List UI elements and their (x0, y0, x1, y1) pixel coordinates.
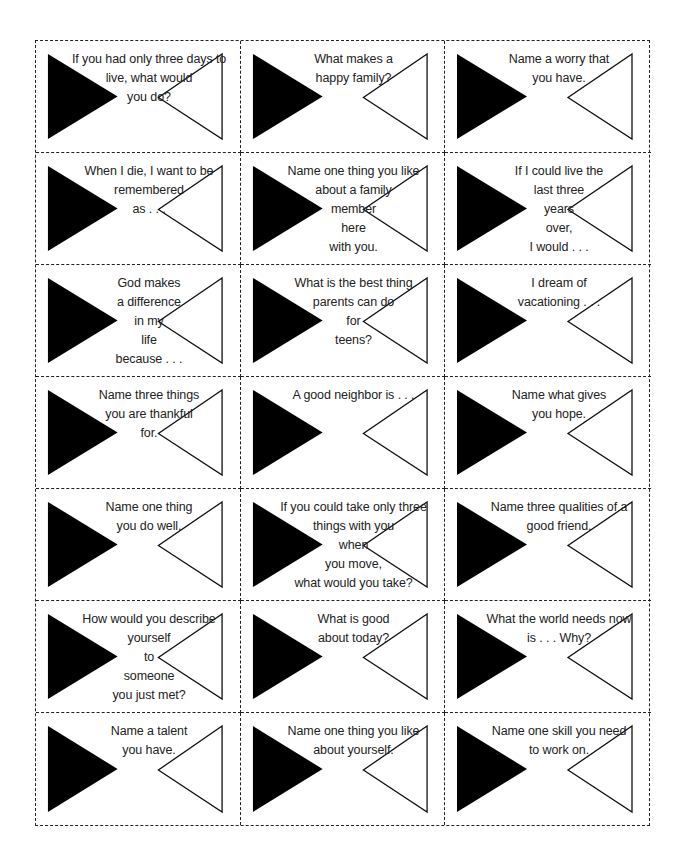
conversation-card: I dream ofvacationing . . . (445, 265, 651, 377)
prompt-line: you do well. (72, 517, 226, 536)
card-prompt: What is the best thingparents can dofort… (277, 274, 430, 350)
prompt-line: life (72, 331, 226, 350)
prompt-line: parents can do (277, 293, 430, 312)
prompt-line: If you had only three days to (72, 50, 226, 69)
conversation-card: A good neighbor is . . . (241, 377, 445, 489)
prompt-line: you hope. (481, 405, 637, 424)
prompt-line: If I could live the (481, 162, 637, 181)
prompt-line: Name three things (72, 386, 226, 405)
prompt-line: when (277, 536, 430, 555)
prompt-line: remembered (72, 181, 226, 200)
conversation-card: If you could take only threethings with … (241, 489, 445, 601)
prompt-line: you move, (277, 555, 430, 574)
prompt-line: Name one thing (72, 498, 226, 517)
prompt-line: here (277, 219, 430, 238)
card-prompt: Name three thingsyou are thankfulfor. (72, 386, 226, 443)
conversation-card: Name a worry thatyou have. (445, 41, 651, 153)
card-prompt: Name a talentyou have. (72, 722, 226, 760)
prompt-line: What makes a (277, 50, 430, 69)
prompt-line: Name one skill you need (481, 722, 637, 741)
prompt-line: for (277, 312, 430, 331)
card-sheet: If you had only three days tolive, what … (35, 40, 650, 826)
prompt-line: vacationing . . . (481, 293, 637, 312)
card-prompt: A good neighbor is . . . (277, 386, 430, 405)
prompt-line: things with you (277, 517, 430, 536)
card-prompt: Name what givesyou hope. (481, 386, 637, 424)
prompt-line: last three (481, 181, 637, 200)
prompt-line: for. (72, 424, 226, 443)
conversation-card: Name three thingsyou are thankfulfor. (36, 377, 241, 489)
conversation-card: What makes ahappy family? (241, 41, 445, 153)
prompt-line: teens? (277, 331, 430, 350)
prompt-line: member (277, 200, 430, 219)
prompt-line: Name a worry that (481, 50, 637, 69)
card-prompt: Name three qualities of agood friend. (481, 498, 637, 536)
prompt-line: you have. (72, 741, 226, 760)
conversation-card: If you had only three days tolive, what … (36, 41, 241, 153)
card-prompt: Name one skill you needto work on. (481, 722, 637, 760)
card-prompt: God makesa differencein mylifebecause . … (72, 274, 226, 369)
card-prompt: Name one thingyou do well. (72, 498, 226, 536)
card-prompt: Name one thing you likeabout yourself. (277, 722, 430, 760)
prompt-line: you just met? (72, 686, 226, 705)
prompt-line: someone (72, 667, 226, 686)
prompt-line: Name a talent (72, 722, 226, 741)
conversation-card: Name one thing you likeabout yourself. (241, 713, 445, 825)
prompt-line: Name three qualities of a (481, 498, 637, 517)
prompt-line: because . . . (72, 350, 226, 369)
card-prompt: When I die, I want to berememberedas . .… (72, 162, 226, 219)
conversation-card: If I could live thelast threeyearsover,I… (445, 153, 651, 265)
conversation-card: Name a talentyou have. (36, 713, 241, 825)
card-prompt: If you had only three days tolive, what … (72, 50, 226, 107)
conversation-card: What is the best thingparents can dofort… (241, 265, 445, 377)
prompt-line: to work on. (481, 741, 637, 760)
card-prompt: Name one thing you likeabout a familymem… (277, 162, 430, 257)
prompt-line: What is the best thing (277, 274, 430, 293)
prompt-line: about a family (277, 181, 430, 200)
conversation-card: Name what givesyou hope. (445, 377, 651, 489)
prompt-line: what would you take? (277, 574, 430, 593)
conversation-card: Name one skill you needto work on. (445, 713, 651, 825)
prompt-line: about yourself. (277, 741, 430, 760)
prompt-line: What is good (277, 610, 430, 629)
prompt-line: A good neighbor is . . . (277, 386, 430, 405)
prompt-line: a difference (72, 293, 226, 312)
prompt-line: good friend. (481, 517, 637, 536)
prompt-line: in my (72, 312, 226, 331)
card-prompt: What the world needs nowis . . . Why? (481, 610, 637, 648)
prompt-line: God makes (72, 274, 226, 293)
prompt-line: When I die, I want to be (72, 162, 226, 181)
prompt-line: over, (481, 219, 637, 238)
prompt-line: Name what gives (481, 386, 637, 405)
card-prompt: What makes ahappy family? (277, 50, 430, 88)
prompt-line: you are thankful (72, 405, 226, 424)
prompt-line: yourself (72, 629, 226, 648)
conversation-card: When I die, I want to berememberedas . .… (36, 153, 241, 265)
card-prompt: I dream ofvacationing . . . (481, 274, 637, 312)
prompt-line: If you could take only three (277, 498, 430, 517)
prompt-line: happy family? (277, 69, 430, 88)
prompt-line: you have. (481, 69, 637, 88)
conversation-card: Name one thingyou do well. (36, 489, 241, 601)
conversation-card: Name three qualities of agood friend. (445, 489, 651, 601)
prompt-line: How would you describe (72, 610, 226, 629)
conversation-card: Name one thing you likeabout a familymem… (241, 153, 445, 265)
prompt-line: as . . . (72, 200, 226, 219)
prompt-line: with you. (277, 238, 430, 257)
card-prompt: If I could live thelast threeyearsover,I… (481, 162, 637, 257)
prompt-line: I dream of (481, 274, 637, 293)
prompt-line: What the world needs now (481, 610, 637, 629)
card-prompt: How would you describeyourselftosomeoney… (72, 610, 226, 705)
prompt-line: you do? (72, 88, 226, 107)
prompt-line: Name one thing you like (277, 722, 430, 741)
conversation-card: What the world needs nowis . . . Why? (445, 601, 651, 713)
prompt-line: Name one thing you like (277, 162, 430, 181)
prompt-line: is . . . Why? (481, 629, 637, 648)
prompt-line: about today? (277, 629, 430, 648)
card-prompt: Name a worry thatyou have. (481, 50, 637, 88)
prompt-line: live, what would (72, 69, 226, 88)
card-prompt: What is goodabout today? (277, 610, 430, 648)
prompt-line: years (481, 200, 637, 219)
prompt-line: to (72, 648, 226, 667)
prompt-line: I would . . . (481, 238, 637, 257)
